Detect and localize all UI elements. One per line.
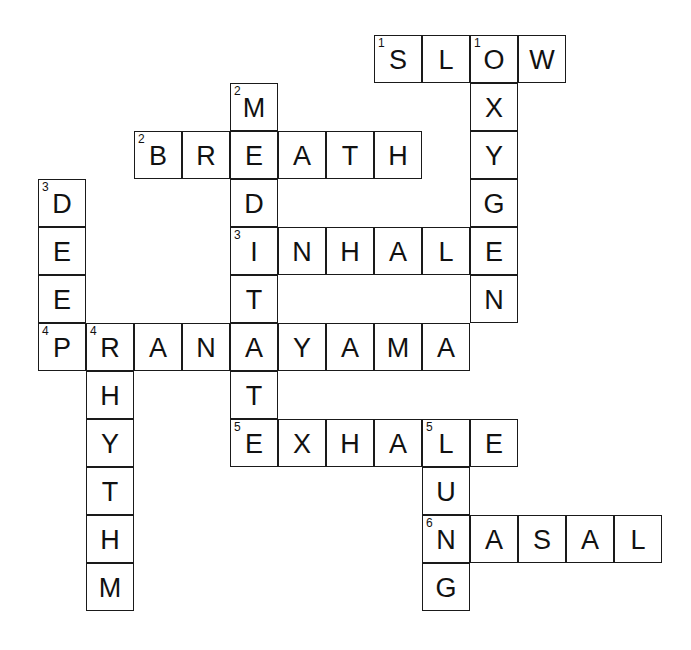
crossword-cell[interactable]: L xyxy=(614,515,662,563)
crossword-cell[interactable]: Y xyxy=(470,131,518,179)
cell-letter: A xyxy=(437,335,455,362)
cell-clue-number: 4 xyxy=(42,325,49,337)
crossword-cell[interactable]: X xyxy=(470,83,518,131)
cell-letter: L xyxy=(438,47,453,74)
cell-letter: E xyxy=(485,239,503,266)
crossword-cell[interactable]: A xyxy=(134,323,182,371)
crossword-cell[interactable]: 1O xyxy=(470,35,518,83)
crossword-cell[interactable]: 4P xyxy=(38,323,86,371)
cell-letter: A xyxy=(293,143,311,170)
cell-letter: M xyxy=(243,95,266,122)
crossword-cell[interactable]: T xyxy=(326,131,374,179)
crossword-cell[interactable]: E xyxy=(230,131,278,179)
crossword-cell[interactable]: H xyxy=(374,131,422,179)
cell-letter: T xyxy=(246,287,263,314)
cell-letter: H xyxy=(100,527,120,554)
crossword-cell[interactable]: U xyxy=(422,467,470,515)
cell-letter: Y xyxy=(293,335,311,362)
cell-letter: A xyxy=(341,335,359,362)
cell-clue-number: 1 xyxy=(378,37,385,49)
cell-letter: E xyxy=(53,287,71,314)
crossword-cell[interactable]: A xyxy=(566,515,614,563)
cell-letter: T xyxy=(246,383,263,410)
crossword-cell[interactable]: 2M xyxy=(230,83,278,131)
crossword-cell[interactable]: H xyxy=(326,227,374,275)
crossword-cell[interactable]: N xyxy=(278,227,326,275)
crossword-cell[interactable]: N xyxy=(470,275,518,323)
cell-letter: Y xyxy=(485,143,503,170)
cell-letter: T xyxy=(342,143,359,170)
crossword-cell[interactable]: Y xyxy=(86,419,134,467)
crossword-cell[interactable]: S xyxy=(518,515,566,563)
cell-clue-number: 3 xyxy=(42,181,49,193)
cell-letter: R xyxy=(100,335,120,362)
cell-letter: G xyxy=(483,191,504,218)
cell-letter: G xyxy=(435,575,456,602)
crossword-cell[interactable]: N xyxy=(182,323,230,371)
crossword-cell[interactable]: A xyxy=(374,419,422,467)
cell-letter: N xyxy=(292,239,312,266)
crossword-cell[interactable]: 2B xyxy=(134,131,182,179)
crossword-cell[interactable]: T xyxy=(230,371,278,419)
crossword-cell[interactable]: 5E xyxy=(230,419,278,467)
crossword-cell[interactable]: 5L xyxy=(422,419,470,467)
crossword-cell[interactable]: L xyxy=(422,227,470,275)
cell-letter: L xyxy=(438,431,453,458)
cell-letter: Y xyxy=(101,431,119,458)
crossword-cell[interactable]: 3I xyxy=(230,227,278,275)
crossword-grid: 1SL1OW2MX2BREATHY3DDGE3INHALEETN4P4RANAY… xyxy=(0,0,691,650)
crossword-cell[interactable]: 1S xyxy=(374,35,422,83)
cell-letter: E xyxy=(245,431,263,458)
cell-letter: S xyxy=(389,47,407,74)
cell-letter: I xyxy=(250,239,258,266)
cell-letter: E xyxy=(485,431,503,458)
crossword-cell[interactable]: E xyxy=(38,227,86,275)
crossword-cell[interactable]: E xyxy=(470,227,518,275)
crossword-cell[interactable]: Y xyxy=(278,323,326,371)
crossword-cell[interactable]: E xyxy=(38,275,86,323)
crossword-cell[interactable]: H xyxy=(86,515,134,563)
cell-letter: B xyxy=(149,143,167,170)
crossword-cell[interactable]: A xyxy=(230,323,278,371)
crossword-cell[interactable]: G xyxy=(470,179,518,227)
crossword-cell[interactable]: H xyxy=(326,419,374,467)
crossword-cell[interactable]: R xyxy=(182,131,230,179)
crossword-cell[interactable]: A xyxy=(278,131,326,179)
crossword-cell[interactable]: A xyxy=(326,323,374,371)
crossword-cell[interactable]: A xyxy=(374,227,422,275)
cell-letter: P xyxy=(53,335,71,362)
crossword-cell[interactable]: A xyxy=(422,323,470,371)
crossword-cell[interactable]: X xyxy=(278,419,326,467)
crossword-cell[interactable]: W xyxy=(518,35,566,83)
cell-clue-number: 6 xyxy=(426,517,433,529)
crossword-cell[interactable]: E xyxy=(470,419,518,467)
cell-clue-number: 4 xyxy=(90,325,97,337)
crossword-cell[interactable]: M xyxy=(374,323,422,371)
cell-clue-number: 5 xyxy=(426,421,433,433)
cell-clue-number: 1 xyxy=(474,37,481,49)
crossword-cell[interactable]: G xyxy=(422,563,470,611)
cell-letter: E xyxy=(53,239,71,266)
crossword-cell[interactable]: H xyxy=(86,371,134,419)
cell-letter: N xyxy=(196,335,216,362)
cell-letter: H xyxy=(388,143,408,170)
crossword-cell[interactable]: L xyxy=(422,35,470,83)
cell-letter: W xyxy=(529,47,554,74)
cell-letter: A xyxy=(389,239,407,266)
cell-letter: N xyxy=(436,527,456,554)
cell-letter: A xyxy=(149,335,167,362)
crossword-cell[interactable]: T xyxy=(86,467,134,515)
cell-letter: H xyxy=(100,383,120,410)
crossword-cell[interactable]: 6N xyxy=(422,515,470,563)
crossword-cell[interactable]: 4R xyxy=(86,323,134,371)
cell-letter: X xyxy=(293,431,311,458)
cell-letter: M xyxy=(387,335,410,362)
crossword-cell[interactable]: A xyxy=(470,515,518,563)
cell-letter: U xyxy=(436,479,456,506)
crossword-cell[interactable]: D xyxy=(230,179,278,227)
cell-letter: S xyxy=(533,527,551,554)
crossword-cell[interactable]: M xyxy=(86,563,134,611)
cell-letter: M xyxy=(99,575,122,602)
crossword-cell[interactable]: T xyxy=(230,275,278,323)
crossword-cell[interactable]: 3D xyxy=(38,179,86,227)
